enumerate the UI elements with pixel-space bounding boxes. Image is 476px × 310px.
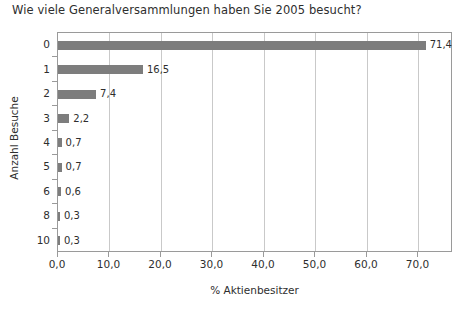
x-axis-tick-label: 0,0 [49, 259, 66, 270]
bar-row[interactable]: 0,7 [58, 155, 451, 179]
y-axis-tick-label: 6 [0, 186, 50, 197]
y-axis-tick-label: 4 [0, 137, 50, 148]
bar-value-label: 0,3 [64, 236, 80, 246]
bar-row[interactable]: 71,4 [58, 33, 451, 57]
y-axis-tick-label: 10 [0, 235, 50, 246]
bar-row[interactable]: 0,7 [58, 131, 451, 155]
x-axis-tick-mark [57, 252, 58, 257]
bar-value-label: 71,4 [430, 40, 452, 50]
bar-value-label: 2,2 [73, 114, 89, 124]
x-axis-tick-labels: 0,010,020,030,040,050,060,070,0 [57, 259, 452, 273]
x-axis-tick-label: 30,0 [200, 259, 223, 270]
bar-row[interactable]: 0,3 [58, 204, 451, 228]
x-axis-tick-label: 60,0 [354, 259, 377, 270]
y-axis-tick-label: 1 [0, 63, 50, 74]
y-axis-tick-label: 5 [0, 161, 50, 172]
y-axis-tick-label: 8 [0, 210, 50, 221]
bar-value-label: 0,7 [66, 162, 82, 172]
y-axis-tick-labels: 0123456810 [0, 32, 50, 252]
x-axis-tick-mark [211, 252, 212, 257]
bar-row[interactable]: 16,5 [58, 57, 451, 81]
bar-value-label: 16,5 [147, 65, 169, 75]
bar-row[interactable]: 0,3 [58, 229, 451, 253]
bar-value-label: 0,3 [64, 211, 80, 221]
x-axis-tick-label: 20,0 [148, 259, 171, 270]
plot-area: 71,416,57,42,20,70,70,60,30,3 [57, 32, 452, 252]
bar-value-label: 7,4 [100, 89, 116, 99]
y-axis-tick-label: 0 [0, 39, 50, 50]
bar-value-label: 0,7 [66, 138, 82, 148]
bar-value-label: 0,6 [65, 187, 81, 197]
x-axis-tick-label: 40,0 [251, 259, 274, 270]
bar[interactable] [58, 236, 60, 245]
x-axis-tick-mark [366, 252, 367, 257]
x-axis-tick-mark [417, 252, 418, 257]
x-axis-tick-label: 50,0 [303, 259, 326, 270]
bar[interactable] [58, 65, 143, 74]
x-axis-title: % Aktienbesitzer [57, 284, 452, 296]
x-axis-tick-label: 10,0 [97, 259, 120, 270]
x-axis-tick-mark [108, 252, 109, 257]
bars-layer: 71,416,57,42,20,70,70,60,30,3 [58, 33, 451, 251]
x-axis-tick-mark [263, 252, 264, 257]
bar[interactable] [58, 138, 62, 147]
bar-row[interactable]: 0,6 [58, 180, 451, 204]
x-axis-tick-label: 70,0 [406, 259, 429, 270]
bar[interactable] [58, 187, 61, 196]
chart-title: Wie viele Generalversammlungen haben Sie… [12, 3, 362, 17]
bar[interactable] [58, 90, 96, 99]
bar[interactable] [58, 114, 69, 123]
bar[interactable] [58, 163, 62, 172]
bar-row[interactable]: 7,4 [58, 82, 451, 106]
x-axis-tick-mark [160, 252, 161, 257]
x-axis-tick-marks [57, 252, 452, 257]
bar[interactable] [58, 212, 60, 221]
bar[interactable] [58, 41, 426, 50]
y-axis-tick-label: 2 [0, 88, 50, 99]
bar-row[interactable]: 2,2 [58, 106, 451, 130]
x-axis-tick-mark [314, 252, 315, 257]
y-axis-tick-label: 3 [0, 112, 50, 123]
